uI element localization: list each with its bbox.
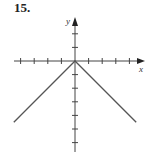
y-axis-arrow-icon — [72, 17, 78, 26]
x-axis-label: x — [138, 64, 143, 74]
graph: x y — [0, 0, 150, 156]
y-axis-label: y — [65, 16, 70, 26]
